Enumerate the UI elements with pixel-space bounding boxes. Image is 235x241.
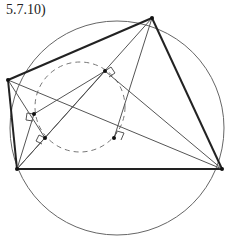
foot-2 bbox=[112, 136, 116, 140]
diagonal-ac bbox=[8, 80, 222, 169]
line-b-foot bbox=[17, 71, 105, 169]
foot-1 bbox=[103, 69, 107, 73]
line-foot-c bbox=[105, 71, 222, 169]
point-c bbox=[220, 167, 224, 171]
line-d-foot bbox=[114, 18, 152, 138]
auxiliary-lines bbox=[8, 18, 222, 169]
line-b-foot2 bbox=[17, 114, 34, 169]
foot-4 bbox=[43, 136, 47, 140]
point-a bbox=[6, 78, 10, 82]
line-feet bbox=[34, 71, 105, 114]
right-angle-markers bbox=[26, 67, 124, 144]
geometry-diagram bbox=[0, 0, 235, 241]
point-b bbox=[15, 167, 19, 171]
point-d bbox=[150, 16, 154, 20]
side-dc bbox=[152, 18, 222, 169]
foot-3 bbox=[32, 112, 36, 116]
points bbox=[6, 16, 224, 171]
